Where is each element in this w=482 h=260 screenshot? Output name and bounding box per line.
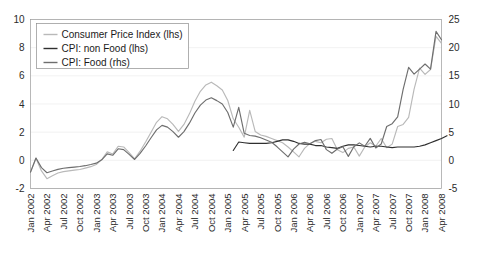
x-axis-tick-label: Oct 2004 [206,194,217,233]
x-axis-tick-label: Jan 2007 [354,194,365,233]
left-axis-tick-label: 4 [19,99,25,110]
x-axis-tick-label: Oct 2002 [74,194,85,233]
x-axis-tick-label: Jan 2002 [25,194,36,233]
x-axis-tick-label: Jan 2004 [156,194,167,233]
right-axis-tick-label: 15 [449,70,461,81]
legend-label-0: Consumer Price Index (lhs) [62,29,183,40]
right-axis-tick-label: -5 [449,183,458,194]
left-axis-tick-label: 6 [19,70,25,81]
left-axis-tick-label: 10 [13,14,25,25]
x-axis-tick-label: Oct 2006 [337,194,348,233]
left-axis-tick-label: 8 [19,42,25,53]
x-axis-tick-label: Apr 2002 [41,194,52,233]
right-axis-tick-label: 5 [449,127,455,138]
right-axis-tick-label: 25 [449,14,461,25]
left-axis-tick-label: 0 [19,155,25,166]
right-axis-tick-label: 0 [449,155,455,166]
x-axis-tick-label: Jul 2005 [255,194,266,230]
x-axis-tick-label: Jul 2002 [58,194,69,230]
x-axis-tick-label: Jan 2005 [222,194,233,233]
x-axis-tick-label: Apr 2007 [370,194,381,233]
legend-label-2: CPI: Food (rhs) [62,57,130,68]
left-axis-tick-labels: 1086420-2 [13,14,25,194]
x-axis-tick-label: Jul 2003 [124,194,135,230]
right-axis-tick-labels: 2520151050-5 [449,14,461,194]
cpi-line-chart: 1086420-2 2520151050-5 Jan 2002Apr 2002J… [0,0,482,260]
x-axis-tick-label: Jan 2003 [91,194,102,233]
x-axis-tick-label: Oct 2007 [403,194,414,233]
chart-legend: Consumer Price Index (lhs)CPI: non Food … [37,24,189,69]
x-axis-tick-label: Jul 2006 [321,194,332,230]
x-axis-tick-label: Jan 2006 [288,194,299,233]
x-axis-tick-label: Apr 2006 [304,194,315,233]
x-axis-tick-label: Oct 2003 [140,194,151,233]
x-axis-tick-label: Apr 2005 [239,194,250,233]
chart-canvas: 1086420-2 2520151050-5 Jan 2002Apr 2002J… [0,0,482,260]
x-axis-tick-label: Oct 2005 [272,194,283,233]
left-axis-tick-label: 2 [19,127,25,138]
x-axis-tick-label: Apr 2004 [173,194,184,233]
x-axis-tick-label: Jul 2007 [387,194,398,230]
x-axis-tick-labels: Jan 2002Apr 2002Jul 2002Oct 2002Jan 2003… [25,194,447,233]
x-axis-tick-label: Apr 2003 [107,194,118,233]
left-axis-tick-label: -2 [16,183,25,194]
x-axis-tick-label: Jan 2008 [419,194,430,233]
x-axis-tick-label: Jul 2004 [189,194,200,230]
right-axis-tick-label: 10 [449,99,461,110]
legend-label-1: CPI: non Food (lhs) [62,43,149,54]
x-axis-tick-label: Apr 2008 [436,194,447,233]
right-axis-tick-label: 20 [449,42,461,53]
